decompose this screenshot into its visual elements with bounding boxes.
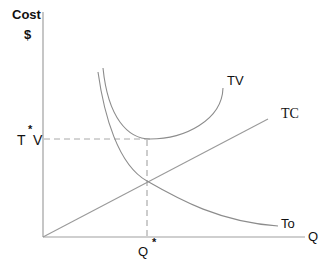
tv-star-label-t: T xyxy=(17,133,26,147)
to-curve xyxy=(98,72,278,226)
q-star-label-q: Q xyxy=(138,245,148,258)
tv-star-label-v: V xyxy=(33,133,42,147)
q-star-label-star: * xyxy=(152,237,156,248)
tv-curve-label: TV xyxy=(227,74,244,87)
cost-diagram xyxy=(0,0,326,270)
tv-curve xyxy=(103,68,223,139)
x-axis-label-q: Q xyxy=(308,230,318,243)
to-curve-label: To xyxy=(281,217,295,230)
y-axis-label-cost: Cost xyxy=(12,8,41,21)
y-axis-label-dollar: $ xyxy=(24,28,31,41)
tv-star-label-star: * xyxy=(28,124,32,135)
tc-line-label: TC xyxy=(281,107,299,121)
